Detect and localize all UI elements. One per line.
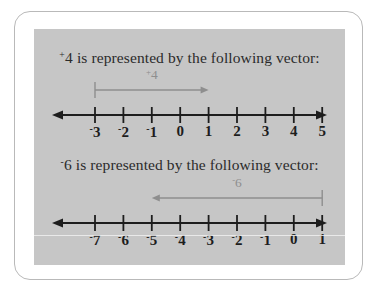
caption-positive-sign: + xyxy=(59,49,65,60)
axis-arrowhead-left xyxy=(52,218,63,227)
axis-arrowhead-left xyxy=(52,110,63,119)
vector-arrowhead xyxy=(152,195,160,202)
number-line-negative: -7-6-5-4-3-2-101 -6 xyxy=(34,181,345,261)
tick-label: -3 xyxy=(90,123,101,141)
tick-label-value: 1 xyxy=(318,231,326,247)
tick-label: -4 xyxy=(175,231,186,249)
caption-negative-value: 6 xyxy=(64,156,72,173)
figure-panel: +4 is represented by the following vecto… xyxy=(34,29,345,265)
caption-positive-vector: +4 is represented by the following vecto… xyxy=(34,49,345,67)
number-line-positive: -3-2-1012345 +4 xyxy=(34,73,345,153)
tick-label: 2 xyxy=(233,123,241,140)
tick-label: 5 xyxy=(318,123,326,140)
tick-label: -7 xyxy=(90,231,101,249)
tick-label: -2 xyxy=(118,123,129,141)
tick-label-value: 0 xyxy=(176,123,184,139)
tick-label: -1 xyxy=(260,231,271,249)
tick-label-value: 1 xyxy=(205,123,213,139)
tick-label-value: 3 xyxy=(93,124,101,140)
tick-label-value: 4 xyxy=(290,123,298,139)
tick-label-value: 2 xyxy=(233,123,241,139)
tick-label-value: 1 xyxy=(150,124,158,140)
tick-label: 0 xyxy=(176,123,184,140)
tick-label: -1 xyxy=(146,123,157,141)
tick-labels-positive: -3-2-1012345 xyxy=(34,123,345,147)
tick-label-value: 2 xyxy=(121,124,129,140)
tick-label: 4 xyxy=(290,123,298,140)
vector-label-negative: -6 xyxy=(232,175,242,191)
tick-label: 3 xyxy=(262,123,270,140)
vector-label-value: 6 xyxy=(235,175,242,190)
caption-negative-vector: -6 is represented by the following vecto… xyxy=(34,156,345,174)
vector-arrowhead xyxy=(201,87,209,94)
scanline-artifact xyxy=(34,235,345,236)
caption-positive-text: is represented by the following vector: xyxy=(73,49,320,66)
tick-label: -3 xyxy=(203,231,214,249)
caption-negative-text: is represented by the following vector: xyxy=(72,156,319,173)
caption-positive-value: 4 xyxy=(65,49,73,66)
tick-label: -6 xyxy=(118,231,129,249)
tick-label: 1 xyxy=(205,123,213,140)
tick-label: 0 xyxy=(290,231,298,248)
vector-label-value: 4 xyxy=(151,67,158,82)
figure-frame: +4 is represented by the following vecto… xyxy=(14,11,363,280)
tick-label: -5 xyxy=(146,231,157,249)
tick-label: -2 xyxy=(232,231,243,249)
vector-label-positive: +4 xyxy=(146,67,158,83)
tick-label-value: 0 xyxy=(290,231,298,247)
tick-label-value: 5 xyxy=(318,123,326,139)
tick-label-value: 3 xyxy=(262,123,270,139)
tick-label: 1 xyxy=(318,231,326,248)
